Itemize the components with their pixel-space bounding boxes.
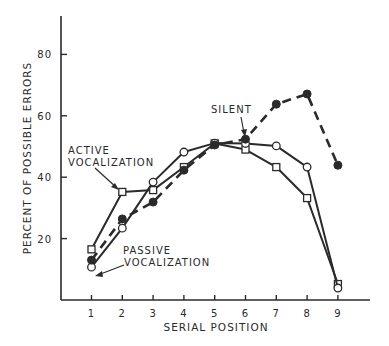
y-tick-label: 40 [37, 172, 52, 183]
annotation-active-line2: VOCALIZATION [68, 157, 154, 168]
open-circle-marker-icon [334, 284, 342, 292]
filled-circle-marker-icon [211, 141, 219, 149]
square-marker-icon [273, 164, 280, 171]
open-circle-marker-icon [119, 224, 127, 232]
annotation-passive-line1: PASSIVE [123, 245, 171, 256]
y-axis-title: PERCENT OF POSSIBLE ERRORS [21, 62, 33, 254]
filled-circle-marker-icon [303, 90, 311, 98]
x-tick-label: 7 [273, 308, 280, 319]
annotation-passive-line2: VOCALIZATION [124, 257, 210, 268]
y-tick-label: 20 [37, 234, 52, 245]
y-ticks: 20406080 [37, 49, 67, 244]
filled-circle-marker-icon [118, 215, 126, 223]
x-tick-label: 4 [180, 308, 187, 319]
square-marker-icon [119, 188, 126, 195]
square-marker-icon [150, 187, 157, 194]
annotation-passive-vocalization: PASSIVE VOCALIZATION [95, 245, 210, 277]
filled-circle-marker-icon [180, 166, 188, 174]
x-tick-label: 6 [242, 308, 249, 319]
y-tick-label: 60 [37, 111, 52, 122]
serial-position-chart: 20406080 123456789 PERCENT OF POSSIBLE E… [0, 0, 389, 346]
open-circle-marker-icon [180, 148, 188, 156]
annotation-active-line1: ACTIVE [68, 145, 110, 156]
x-tick-label: 3 [149, 308, 156, 319]
x-tick-label: 9 [334, 308, 341, 319]
annotation-silent-label: SILENT [211, 104, 252, 115]
square-marker-icon [304, 195, 311, 202]
arrowhead-passive-icon [95, 271, 103, 277]
series-silent [88, 90, 342, 264]
filled-circle-marker-icon [272, 100, 280, 108]
open-circle-marker-icon [273, 142, 281, 150]
x-axis-title: SERIAL POSITION [163, 321, 268, 333]
x-tick-label: 2 [119, 308, 126, 319]
x-tick-label: 1 [88, 308, 95, 319]
square-marker-icon [88, 246, 95, 253]
open-circle-marker-icon [149, 178, 157, 186]
x-ticks: 123456789 [88, 295, 342, 319]
annotation-silent: SILENT [211, 104, 252, 137]
filled-circle-marker-icon [149, 198, 157, 206]
filled-circle-marker-icon [88, 256, 96, 264]
annotation-active-vocalization: ACTIVE VOCALIZATION [68, 145, 154, 190]
filled-circle-marker-icon [334, 161, 342, 169]
x-tick-label: 8 [303, 308, 310, 319]
open-circle-marker-icon [303, 163, 311, 171]
y-tick-label: 80 [37, 49, 52, 60]
series-line [92, 94, 338, 260]
x-tick-label: 5 [211, 308, 218, 319]
filled-circle-marker-icon [242, 135, 250, 143]
